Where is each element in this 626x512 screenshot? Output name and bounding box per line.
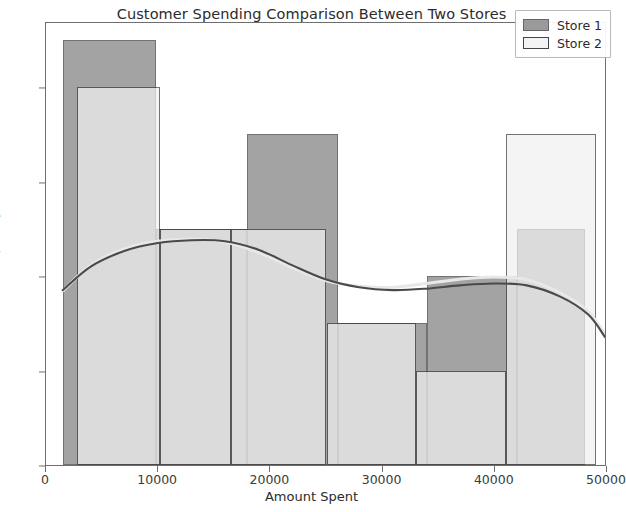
y-axis-tick-mark [39,182,45,183]
y-axis-tick-mark [39,88,45,89]
y-axis-tick-mark [39,277,45,278]
x-axis-tick-mark [494,466,495,472]
legend-item-store-1[interactable]: Store 1 [523,16,602,34]
chart-legend: Store 1 Store 2 [515,10,611,58]
x-axis-tick-label: 0 [41,472,49,487]
x-axis-tick-label: 10000 [137,472,177,487]
legend-label-store-2: Store 2 [557,36,602,51]
x-axis-tick-label: 50000 [586,472,626,487]
plot-area [45,22,606,466]
histogram-bar [160,229,231,465]
histogram-bars-layer [46,23,605,465]
x-axis-tick-label: 40000 [474,472,514,487]
histogram-bar [231,229,326,465]
x-axis-tick-mark [269,466,270,472]
legend-label-store-1: Store 1 [557,18,602,33]
histogram-bar [506,134,596,465]
x-axis-tick-mark [382,466,383,472]
legend-item-store-2[interactable]: Store 2 [523,34,602,52]
x-axis-tick-mark [157,466,158,472]
histogram-bar [327,323,417,465]
x-axis-tick-mark [606,466,607,472]
x-axis-label: Amount Spent [0,489,623,504]
histogram-bar [77,87,160,465]
y-axis-tick-mark [39,371,45,372]
x-axis-tick-mark [45,466,46,472]
histogram-bar [416,371,506,465]
legend-swatch-store-1 [523,19,549,31]
x-axis-tick-label: 20000 [250,472,290,487]
legend-swatch-store-2 [523,37,549,49]
x-axis-tick-label: 30000 [362,472,402,487]
